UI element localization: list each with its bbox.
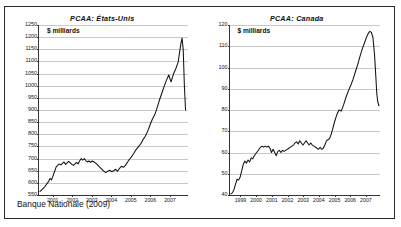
- y-tick-label-canada: 60: [222, 150, 228, 155]
- x-tick-label-canada: 2005: [329, 198, 341, 203]
- y-tick-label-us: 1050: [25, 71, 37, 76]
- x-tick-label-canada: 2001: [266, 198, 278, 203]
- y-tick-label-canada: 80: [222, 107, 228, 112]
- chart-panel-us: PCAA: États-Unis $ milliards 55060065070…: [5, 7, 200, 218]
- y-tick-label-us: 600: [28, 180, 37, 185]
- x-tick-label-canada: 2007: [360, 198, 372, 203]
- y-tick-label-us: 1150: [25, 47, 37, 52]
- y-tick-label-us: 950: [28, 95, 37, 100]
- series-layer-us: [39, 25, 188, 195]
- x-tick-label-us: 2007: [164, 198, 176, 203]
- x-tick-label-canada: 2004: [313, 198, 325, 203]
- source-note: Banque Nationale (2009): [17, 199, 110, 209]
- y-tick-label-us: 850: [28, 119, 37, 124]
- y-tick-label-canada: 100: [219, 65, 228, 70]
- y-tick-label-canada: 40: [222, 192, 228, 197]
- plot-area-canada: 4050607080901001101201999200020012002200…: [229, 25, 381, 196]
- x-tick-label-canada: 1999: [235, 198, 247, 203]
- y-tick-label-canada: 70: [222, 129, 228, 134]
- y-tick-label-canada: 90: [222, 86, 228, 91]
- x-tick-label-canada: 2000: [250, 198, 262, 203]
- y-tick-label-canada: 50: [222, 171, 228, 176]
- y-tick-label-us: 800: [28, 132, 37, 137]
- x-tick-label-canada: 2003: [297, 198, 309, 203]
- chart-title-canada: PCAA: Canada: [200, 14, 395, 23]
- plot-area-us: 5506006507007508008509009501000105011001…: [38, 25, 188, 196]
- y-tick-mark-canada: [228, 195, 230, 196]
- x-tick-label-us: 2005: [125, 198, 137, 203]
- y-tick-label-canada: 120: [219, 22, 228, 27]
- series-line-us: [40, 38, 186, 191]
- chart-panel-canada: PCAA: Canada $ milliards 405060708090100…: [200, 7, 395, 218]
- x-tick-label-canada: 2002: [282, 198, 294, 203]
- y-tick-label-us: 650: [28, 168, 37, 173]
- y-tick-label-us: 700: [28, 156, 37, 161]
- y-tick-label-canada: 110: [219, 44, 228, 49]
- y-tick-label-us: 1250: [25, 22, 37, 27]
- y-tick-label-us: 1000: [25, 83, 37, 88]
- x-tick-label-us: 2006: [145, 198, 157, 203]
- y-tick-label-us: 750: [28, 144, 37, 149]
- figure-panel: PCAA: États-Unis $ milliards 55060065070…: [4, 6, 395, 219]
- y-tick-label-us: 1100: [25, 59, 37, 64]
- y-tick-label-us: 900: [28, 107, 37, 112]
- series-line-canada: [230, 31, 378, 194]
- y-tick-mark-us: [37, 195, 39, 196]
- series-layer-canada: [230, 25, 381, 195]
- y-tick-label-us: 550: [28, 192, 37, 197]
- x-tick-label-canada: 2006: [344, 198, 356, 203]
- y-tick-label-us: 1200: [25, 34, 37, 39]
